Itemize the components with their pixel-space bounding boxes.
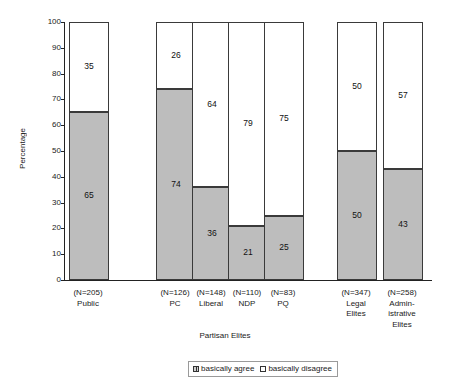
stacked-bar[interactable]: 7426 [156,22,196,280]
bar-value-agree: 43 [384,220,422,229]
y-tick-mark [61,177,65,178]
legend-label: basically agree [201,364,254,374]
category-name-line: PQ [253,299,313,310]
category-name-line: istrative [372,309,432,320]
category-name-line: Public [58,299,118,310]
bar-segment-agree[interactable]: 43 [383,169,423,280]
bar-segment-disagree[interactable]: 79 [228,22,268,226]
sample-size-label: (N=258) [372,288,432,299]
y-tick-mark [61,280,65,281]
x-axis-category-public: (N=205)Public [58,288,118,309]
bar-value-agree: 50 [338,211,376,220]
y-tick-mark [61,99,65,100]
sample-size-label: (N=83) [253,288,313,299]
y-axis-title: Percentage [18,128,32,169]
bar-value-disagree: 57 [384,91,422,100]
bar-segment-disagree[interactable]: 26 [156,22,196,89]
bar-segment-agree[interactable]: 36 [192,187,232,280]
bar-segment-disagree[interactable]: 57 [383,22,423,169]
bar-value-agree: 21 [229,248,267,257]
bar-segment-agree[interactable]: 21 [228,226,268,280]
bar-value-disagree: 26 [157,51,195,60]
stacked-bar[interactable]: 2575 [264,22,304,280]
legend-swatch-agree [193,366,199,372]
legend-label: basically disagree [268,364,332,374]
bar-segment-disagree[interactable]: 35 [69,22,109,112]
category-name-line: Elites [372,320,432,331]
x-axis-group-label: Partisan Elites [170,331,280,340]
bar-segment-disagree[interactable]: 50 [337,22,377,151]
bar-value-agree: 25 [265,243,303,252]
bar-segment-agree[interactable]: 25 [264,216,304,281]
chart-legend: basically agreebasically disagree [188,361,338,377]
y-tick-mark [61,228,65,229]
bar-value-disagree: 79 [229,119,267,128]
y-tick-mark [61,203,65,204]
bar-segment-disagree[interactable]: 75 [264,22,304,216]
y-tick-mark [61,151,65,152]
bar-segment-agree[interactable]: 50 [337,151,377,280]
y-tick-mark [61,125,65,126]
y-tick-mark [61,74,65,75]
bar-value-disagree: 64 [193,100,231,109]
bar-value-disagree: 35 [70,62,108,71]
x-axis-category-pq: (N=83)PQ [253,288,313,309]
y-tick-mark [61,22,65,23]
chart-figure: Percentage 10090807060504030201006535742… [0,0,458,388]
bar-value-disagree: 75 [265,114,303,123]
x-axis-category-administrative-elites: (N=258)Admin-istrativeElites [372,288,432,330]
legend-swatch-disagree [260,366,266,372]
bar-segment-agree[interactable]: 74 [156,89,196,280]
sample-size-label: (N=205) [58,288,118,299]
stacked-bar[interactable]: 2179 [228,22,268,280]
y-tick-mark [61,254,65,255]
legend-item[interactable]: basically agree [193,364,254,374]
legend-item[interactable]: basically disagree [260,364,332,374]
y-tick-mark [61,48,65,49]
bar-value-agree: 74 [157,180,195,189]
bar-segment-disagree[interactable]: 64 [192,22,232,187]
bar-value-agree: 65 [70,191,108,200]
bar-segment-agree[interactable]: 65 [69,112,109,280]
category-name-line: Admin- [372,299,432,310]
stacked-bar[interactable]: 5050 [337,22,377,280]
bar-value-disagree: 50 [338,82,376,91]
plot-area: 1009080706050403020100653574263664217925… [64,22,432,281]
stacked-bar[interactable]: 6535 [69,22,109,280]
stacked-bar[interactable]: 3664 [192,22,232,280]
stacked-bar[interactable]: 4357 [383,22,423,280]
bar-value-agree: 36 [193,229,231,238]
